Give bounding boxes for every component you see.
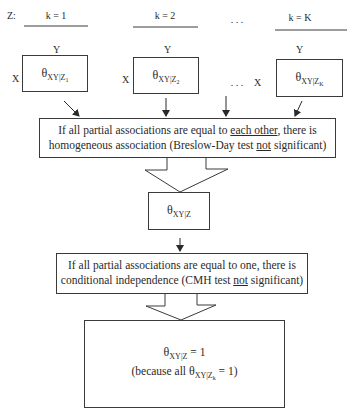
- arrow-icon: [64, 101, 79, 116]
- connector-lines: [0, 0, 359, 417]
- arrow-icon: [295, 101, 302, 116]
- block-arrow-icon: [145, 158, 228, 192]
- block-arrow-icon: [146, 294, 216, 320]
